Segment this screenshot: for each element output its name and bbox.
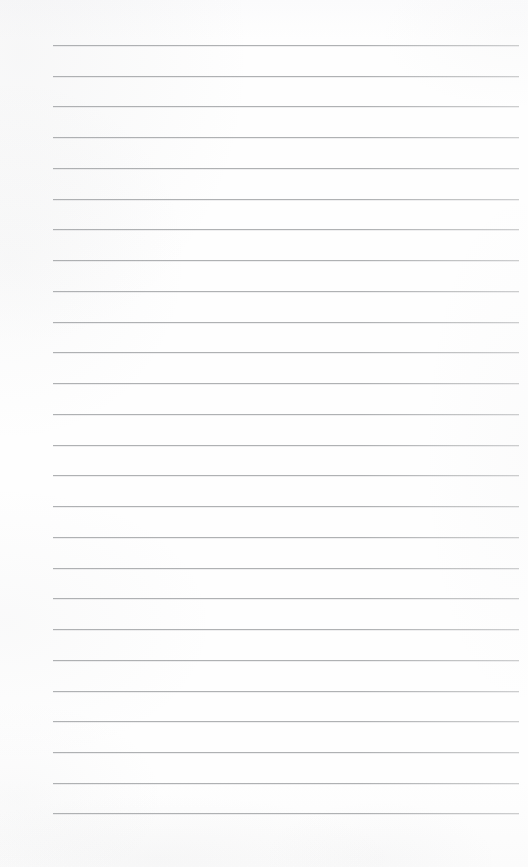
rule-line-12	[53, 383, 519, 384]
rule-line-9	[53, 291, 519, 292]
rule-line-14	[53, 445, 519, 446]
rule-line-26	[53, 813, 519, 814]
rule-line-25	[53, 783, 519, 784]
rule-line-8	[53, 260, 519, 261]
rule-line-17	[53, 537, 519, 538]
ruled-lines-layer	[0, 0, 528, 867]
rule-line-18	[53, 568, 519, 569]
rule-line-3	[53, 106, 519, 107]
rule-line-6	[53, 199, 519, 200]
rule-line-21	[53, 660, 519, 661]
rule-line-1	[53, 45, 519, 46]
rule-line-22	[53, 691, 519, 692]
rule-line-2	[53, 76, 519, 77]
rule-line-5	[53, 168, 519, 169]
rule-line-23	[53, 721, 519, 722]
rule-line-15	[53, 475, 519, 476]
rule-line-19	[53, 598, 519, 599]
rule-line-11	[53, 352, 519, 353]
rule-line-16	[53, 506, 519, 507]
rule-line-20	[53, 629, 519, 630]
rule-line-10	[53, 322, 519, 323]
rule-line-7	[53, 229, 519, 230]
rule-line-13	[53, 414, 519, 415]
scanned-page	[0, 0, 528, 867]
rule-line-24	[53, 752, 519, 753]
rule-line-4	[53, 137, 519, 138]
